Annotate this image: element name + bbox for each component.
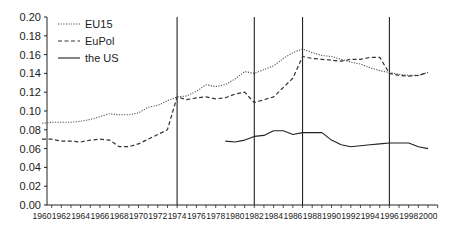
series-the-us bbox=[225, 131, 428, 149]
x-tick-label: 1970 bbox=[129, 211, 148, 221]
y-tick-label: 0.06 bbox=[20, 143, 41, 155]
x-tick-label: 2000 bbox=[419, 211, 438, 221]
x-tick-label: 1968 bbox=[110, 211, 129, 221]
x-tick-label: 1986 bbox=[283, 211, 302, 221]
y-tick-label: 0.16 bbox=[20, 49, 41, 61]
y-tick-label: 0.08 bbox=[20, 124, 41, 136]
vertical-event-lines bbox=[177, 17, 389, 205]
y-tick-label: 0.02 bbox=[20, 180, 41, 192]
y-tick-label: 0.18 bbox=[20, 30, 41, 42]
x-tick-label: 1984 bbox=[264, 211, 283, 221]
legend: EU15EuPolthe US bbox=[58, 18, 119, 64]
legend-label: the US bbox=[85, 52, 119, 64]
x-tick-label: 1990 bbox=[322, 211, 341, 221]
x-tick-label: 1972 bbox=[148, 211, 167, 221]
x-tick-label: 1960 bbox=[33, 211, 52, 221]
x-tick-label: 1966 bbox=[90, 211, 109, 221]
x-tick-label: 1988 bbox=[303, 211, 322, 221]
x-tick-label: 1964 bbox=[71, 211, 90, 221]
y-tick-label: 0.12 bbox=[20, 86, 41, 98]
x-tick-label: 1998 bbox=[399, 211, 418, 221]
x-tick-label: 1992 bbox=[341, 211, 360, 221]
y-tick-label: 0.10 bbox=[20, 105, 41, 117]
x-tick-label: 1996 bbox=[380, 211, 399, 221]
x-tick-label: 1978 bbox=[206, 211, 225, 221]
legend-label: EU15 bbox=[85, 18, 113, 30]
y-tick-label: 0.04 bbox=[20, 161, 41, 173]
y-tick-label: 0.20 bbox=[20, 11, 41, 23]
x-tick-label: 1980 bbox=[226, 211, 245, 221]
x-tick-label: 1974 bbox=[168, 211, 187, 221]
x-tick-label: 1982 bbox=[245, 211, 264, 221]
x-tick-label: 1976 bbox=[187, 211, 206, 221]
axes: 0.000.020.040.060.080.100.120.140.160.18… bbox=[20, 11, 438, 221]
line-chart: 0.000.020.040.060.080.100.120.140.160.18… bbox=[0, 0, 462, 226]
series-eupol bbox=[42, 57, 428, 147]
x-tick-label: 1962 bbox=[52, 211, 71, 221]
x-tick-label: 1994 bbox=[361, 211, 380, 221]
legend-label: EuPol bbox=[85, 35, 114, 47]
y-tick-label: 0.00 bbox=[20, 199, 41, 211]
y-tick-label: 0.14 bbox=[20, 67, 41, 79]
